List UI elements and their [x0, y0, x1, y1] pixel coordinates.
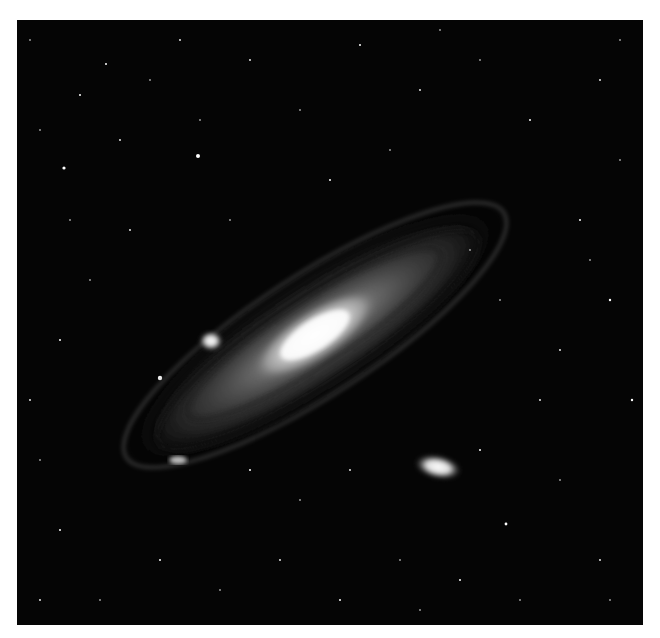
galaxy	[67, 140, 563, 530]
galaxy-photograph	[17, 20, 643, 625]
satellite-galaxy-upper-left	[199, 331, 223, 351]
satellite-galaxy-lower-right	[412, 450, 464, 483]
galaxy-illustration	[17, 20, 643, 625]
